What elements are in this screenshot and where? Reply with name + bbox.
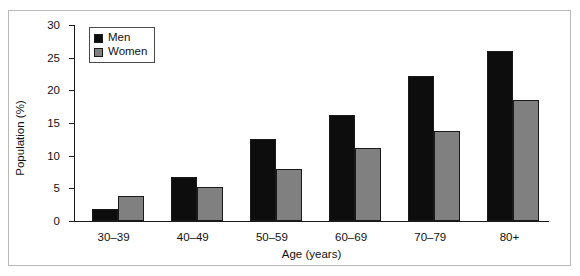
x-axis-tick-label: 70–79 xyxy=(391,231,470,243)
bar-group xyxy=(329,25,381,221)
y-axis-tick-label: 5 xyxy=(54,182,60,194)
x-axis-label: Age (years) xyxy=(74,248,549,260)
y-axis-tick-label: 30 xyxy=(47,19,60,31)
y-axis-tick-label: 25 xyxy=(47,52,60,64)
y-axis-tick-label: 20 xyxy=(47,84,60,96)
y-axis-tick-label: 10 xyxy=(47,150,60,162)
x-axis-line xyxy=(74,221,549,222)
legend-label-men: Men xyxy=(108,32,130,44)
y-axis-tick: 0 xyxy=(69,221,74,222)
bar-group xyxy=(408,25,460,221)
chart-legend: Men Women xyxy=(89,27,155,63)
x-axis-tick-label: 50–59 xyxy=(232,231,311,243)
bar-men xyxy=(250,139,276,221)
bar-men xyxy=(92,209,118,221)
legend-label-women: Women xyxy=(108,46,147,58)
y-axis-tick: 25 xyxy=(69,58,74,59)
y-axis-label: Population (%) xyxy=(14,100,26,175)
bar-men xyxy=(329,115,355,221)
legend-swatch-women-icon xyxy=(94,48,103,57)
y-axis-tick-label: 0 xyxy=(54,215,60,227)
y-axis-tick: 5 xyxy=(69,188,74,189)
bar-group xyxy=(487,25,539,221)
bar-men xyxy=(408,76,434,221)
y-axis-line xyxy=(74,25,75,221)
y-axis-tick-label: 15 xyxy=(47,117,60,129)
bar-women xyxy=(434,131,460,221)
bar-women xyxy=(513,100,539,221)
bar-group xyxy=(250,25,302,221)
bar-men xyxy=(487,51,513,221)
bar-men xyxy=(171,177,197,221)
bar-women xyxy=(118,196,144,221)
x-axis-tick-label: 40–49 xyxy=(153,231,232,243)
y-axis-tick: 30 xyxy=(69,25,74,26)
y-axis-tick: 20 xyxy=(69,90,74,91)
bar-women xyxy=(276,169,302,221)
figure-container: Population (%) Age (years) 051015202530 … xyxy=(0,0,580,276)
x-axis-tick-label: 60–69 xyxy=(312,231,391,243)
legend-item-women: Women xyxy=(94,45,147,59)
x-axis-tick-label: 30–39 xyxy=(74,231,153,243)
y-axis-tick: 15 xyxy=(69,123,74,124)
legend-item-men: Men xyxy=(94,31,147,45)
bar-group xyxy=(171,25,223,221)
y-axis-tick: 10 xyxy=(69,156,74,157)
x-axis-tick-label: 80+ xyxy=(470,231,549,243)
legend-swatch-men-icon xyxy=(94,34,103,43)
bar-women xyxy=(355,148,381,221)
bar-women xyxy=(197,187,223,221)
